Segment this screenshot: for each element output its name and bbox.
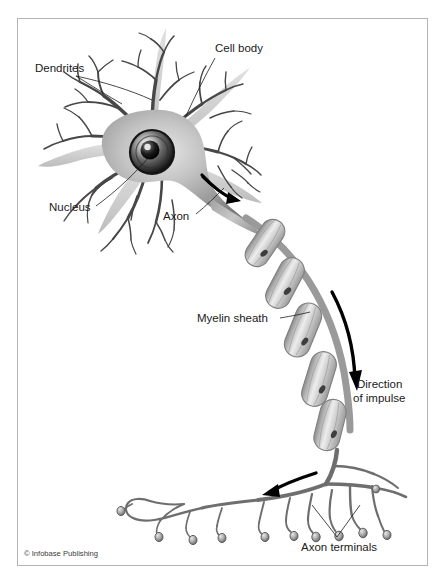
label-myelin-sheath: Myelin sheath: [197, 312, 268, 324]
leader-terminals-2: [337, 505, 360, 537]
figure-root: Dendrites Cell body Nucleus Axon Myelin …: [0, 0, 444, 581]
label-nucleus: Nucleus: [49, 201, 91, 213]
label-direction-line1: Direction: [357, 378, 402, 390]
nucleus: [130, 130, 174, 174]
label-direction-line2: of impulse: [353, 392, 405, 404]
neuron-diagram: Dendrites Cell body Nucleus Axon Myelin …: [0, 0, 444, 581]
label-axon: Axon: [163, 210, 189, 222]
label-cell-body: Cell body: [215, 42, 263, 54]
label-axon-terminals: Axon terminals: [301, 541, 377, 553]
copyright-credit: © Infobase Publishing: [24, 549, 98, 558]
leader-dendrites-2: [76, 76, 152, 100]
label-dendrites: Dendrites: [35, 62, 84, 74]
